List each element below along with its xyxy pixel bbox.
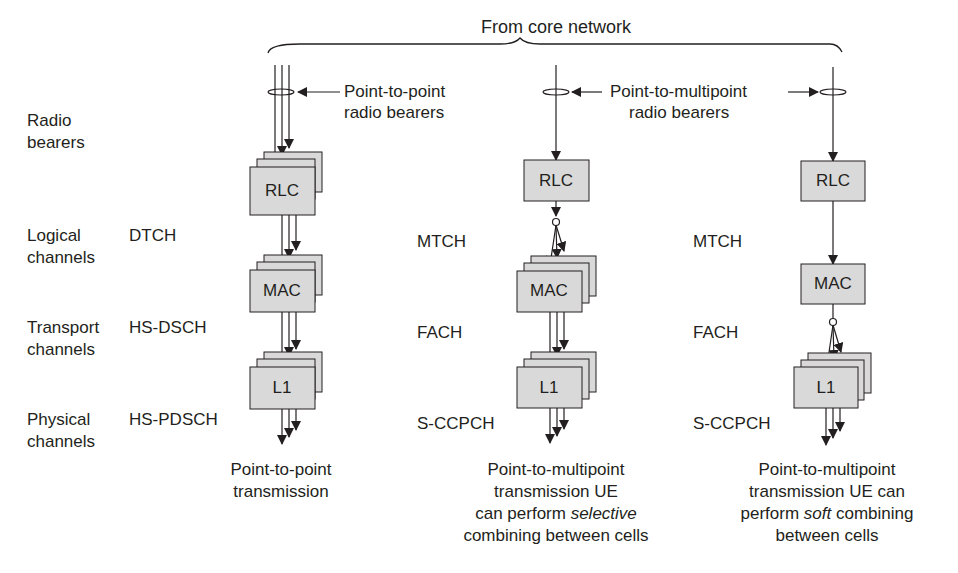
core-network-title: From core network (481, 17, 631, 38)
col1-transport-channel: HS-DSCH (129, 317, 206, 338)
combine-node-icon (830, 319, 837, 326)
col1-rlc-label: RLC (265, 181, 299, 201)
p2p-bearers-label-line2: radio bearers (344, 102, 444, 123)
col2-mac-label: MAC (530, 281, 568, 301)
col3-logical-channel: MTCH (693, 231, 742, 252)
col1-mac-label: MAC (263, 281, 301, 301)
col1-l1-label: L1 (273, 378, 292, 398)
col3-l1-label: L1 (817, 378, 836, 398)
col1-physical-channel: HS-PDSCH (129, 409, 218, 430)
p2m-bearers-label-line1: Point-to-multipoint (610, 81, 747, 102)
p2p-bearers-label-line1: Point-to-point (344, 81, 445, 102)
core-network-brace (268, 38, 842, 53)
col3-mac-label: MAC (814, 274, 852, 294)
col1-logical-channel: DTCH (129, 225, 176, 246)
col2-rlc-label: RLC (539, 171, 573, 191)
col2-logical-channel: MTCH (417, 231, 466, 252)
emphasis-soft: soft (804, 504, 831, 523)
col3-transport-channel: FACH (693, 322, 738, 343)
column-point-to-point (268, 65, 340, 163)
bearer-loop-icon (268, 89, 294, 95)
col2-transport-channel: FACH (417, 322, 462, 343)
emphasis-selective: selective (571, 504, 637, 523)
col2-physical-channel: S-CCPCH (417, 413, 494, 434)
split-node-icon (553, 219, 560, 226)
col2-l1-label: L1 (540, 378, 559, 398)
col3-rlc-label: RLC (816, 171, 850, 191)
p2m-bearers-label-line2: radio bearers (629, 102, 729, 123)
col3-physical-channel: S-CCPCH (693, 413, 770, 434)
